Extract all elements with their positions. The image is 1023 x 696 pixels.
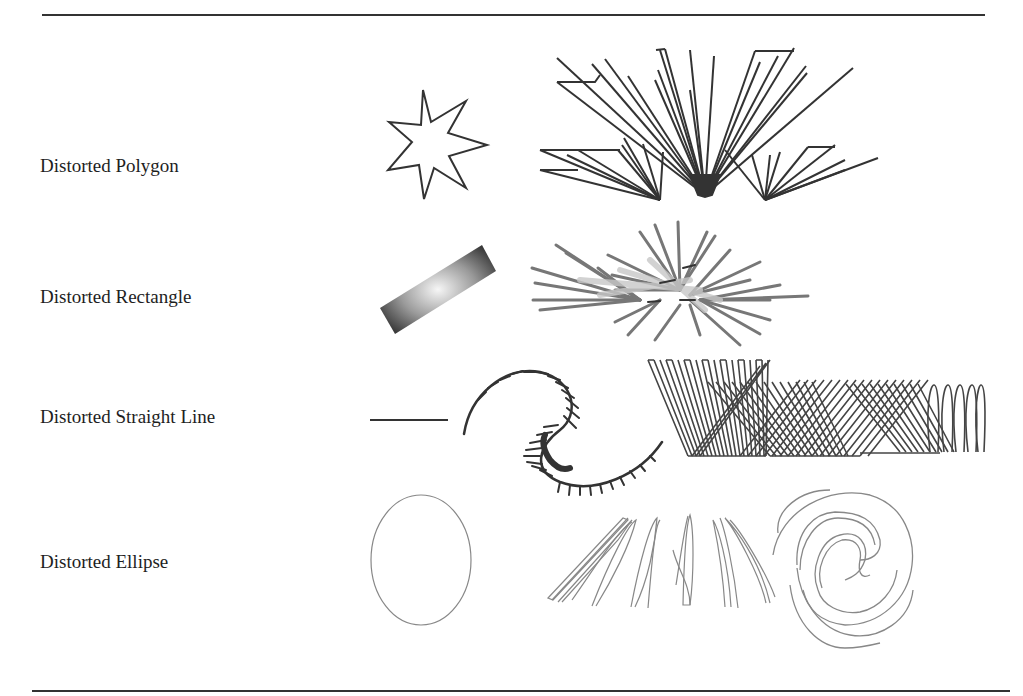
distorted-line-loops bbox=[648, 360, 985, 456]
figure-canvas bbox=[0, 0, 1023, 696]
distorted-ellipse-spiral bbox=[773, 490, 913, 648]
ellipse-icon bbox=[371, 495, 471, 625]
gradient-rectangle-icon bbox=[380, 245, 496, 334]
distorted-line-feathered-spiral bbox=[464, 371, 662, 495]
distorted-ellipse-loops bbox=[548, 515, 775, 608]
distorted-rectangle-spikes bbox=[532, 222, 808, 345]
star-polygon-icon bbox=[388, 90, 487, 199]
distorted-polygon-spikes bbox=[540, 48, 878, 200]
